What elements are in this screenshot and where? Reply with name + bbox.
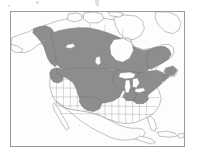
hispaniola-island: [178, 133, 184, 138]
victoria-island: [83, 12, 104, 23]
scan-artifact: [36, 1, 39, 4]
map-frame: [10, 11, 185, 147]
lake-superior: [119, 72, 136, 79]
scan-artifact: [96, 4, 99, 6]
scan-artifact: [8, 5, 10, 7]
range-labrador-maritimes: [146, 46, 171, 69]
greenland-margin: [155, 12, 181, 34]
cuba-island: [157, 131, 177, 137]
central-america: [136, 136, 156, 144]
range-map-figure: [0, 0, 197, 160]
florida-peninsula: [147, 115, 156, 131]
north-america-map: [11, 12, 184, 146]
